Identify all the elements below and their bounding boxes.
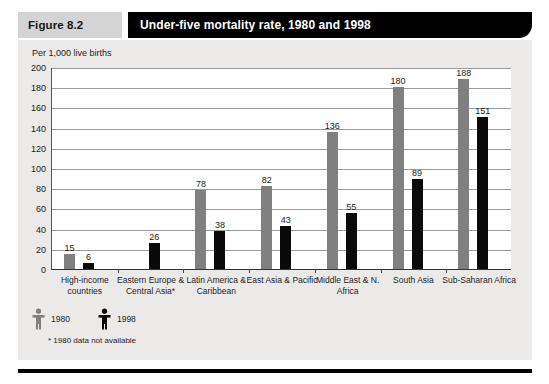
- figure-root: Figure 8.2 Under-five mortality rate, 19…: [0, 0, 549, 384]
- bar-group: 188151Sub-Saharan Africa: [446, 68, 512, 269]
- y-axis-tick-label: 60: [36, 204, 46, 214]
- bar-group: 18089South Asia: [381, 68, 447, 269]
- bar-1998: 26: [149, 243, 160, 269]
- x-axis-tick: [381, 269, 382, 273]
- bar-1980: 82: [261, 186, 272, 269]
- bar-1980: 15: [64, 254, 75, 269]
- bar-value-label: 188: [456, 68, 471, 78]
- bar-group: 7838Latin America & Caribbean: [183, 68, 249, 269]
- figure-title: Under-five mortality rate, 1980 and 1998: [140, 18, 371, 32]
- chart-legend: 19801998: [32, 308, 164, 330]
- bar-group: 13655Middle East & N. Africa: [315, 68, 381, 269]
- bar-1998: 151: [477, 117, 488, 270]
- y-axis-tick-label: 160: [31, 103, 46, 113]
- person-icon: [98, 308, 111, 330]
- x-axis-tick: [446, 269, 447, 273]
- y-axis-tick-label: 20: [36, 245, 46, 255]
- bar-1980: 78: [195, 190, 206, 269]
- figure-number-label: Figure 8.2: [28, 19, 83, 31]
- y-axis-tick-label: 180: [31, 83, 46, 93]
- bar-value-label: 180: [391, 76, 406, 86]
- footnote-text: * 1980 data not available: [48, 336, 136, 345]
- x-axis-tick: [183, 269, 184, 273]
- bar-value-label: 43: [281, 215, 291, 225]
- bar-value-label: 136: [325, 121, 340, 131]
- bar-value-label: 78: [196, 179, 206, 189]
- bar-1980: 136: [327, 132, 338, 269]
- y-axis-tick-label: 80: [36, 184, 46, 194]
- x-axis-category-label: Sub-Saharan Africa: [437, 275, 521, 286]
- bar-1980: 188: [458, 79, 469, 269]
- legend-item: 1998: [98, 308, 136, 330]
- bottom-rule: [18, 369, 532, 373]
- y-axis-tick-label: 40: [36, 225, 46, 235]
- bar-group: 8243East Asia & Pacific: [249, 68, 315, 269]
- bar-value-label: 89: [412, 168, 422, 178]
- x-axis-tick: [118, 269, 119, 273]
- bar-1998: 6: [83, 263, 94, 269]
- y-axis-tick-label: 200: [31, 63, 46, 73]
- y-axis-tick-label: 140: [31, 124, 46, 134]
- y-axis-units-label: Per 1,000 live births: [32, 48, 112, 58]
- figure-header: Figure 8.2 Under-five mortality rate, 19…: [0, 12, 549, 38]
- bar-value-label: 151: [475, 106, 490, 116]
- x-axis-tick: [249, 269, 250, 273]
- bar-1998: 43: [280, 226, 291, 269]
- bar-value-label: 6: [86, 252, 91, 262]
- bar-1998: 38: [214, 231, 225, 269]
- bar-1998: 55: [346, 213, 357, 269]
- bar-value-label: 55: [346, 202, 356, 212]
- bar-1998: 89: [412, 179, 423, 269]
- bar-group: 26Eastern Europe & Central Asia*: [118, 68, 184, 269]
- chart-area: 020406080100120140160180200156High-incom…: [51, 68, 511, 270]
- bar-value-label: 15: [64, 243, 74, 253]
- plot-area: 020406080100120140160180200156High-incom…: [51, 68, 511, 270]
- figure-title-bar: Under-five mortality rate, 1980 and 1998: [128, 12, 532, 38]
- legend-item: 1980: [32, 308, 70, 330]
- bar-group: 156High-income countries: [52, 68, 118, 269]
- bar-1980: 180: [393, 87, 404, 269]
- x-axis-tick: [315, 269, 316, 273]
- y-axis-tick-label: 120: [31, 144, 46, 154]
- person-icon: [32, 308, 45, 330]
- bar-value-label: 26: [149, 232, 159, 242]
- figure-panel: Per 1,000 live births 020406080100120140…: [18, 40, 532, 360]
- y-axis-tick-label: 100: [31, 164, 46, 174]
- figure-number-box: Figure 8.2: [18, 12, 122, 38]
- legend-label: 1998: [117, 314, 136, 324]
- bar-value-label: 82: [262, 175, 272, 185]
- gridline: 0: [52, 270, 511, 271]
- legend-label: 1980: [51, 314, 70, 324]
- bar-value-label: 38: [215, 220, 225, 230]
- y-axis-tick-label: 0: [41, 265, 46, 275]
